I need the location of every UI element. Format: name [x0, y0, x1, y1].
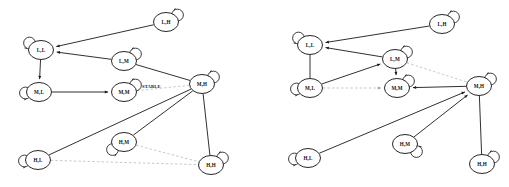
state-node-LH[interactable]: L,H — [154, 8, 184, 31]
state-node-MH[interactable]: M,H — [190, 70, 220, 93]
edge-LM-to-MH — [136, 65, 190, 81]
edge-LM-to-LL — [57, 51, 112, 59]
state-node-label-LL: L,L — [306, 42, 315, 48]
state-node-LM[interactable]: L,M — [112, 47, 142, 70]
edge-ML-to-MM — [323, 87, 381, 90]
state-node-LM[interactable]: L,M — [383, 45, 413, 68]
state-node-ML[interactable]: M,L — [20, 83, 52, 102]
right-state-diagram-panel: L,LL,HL,MM,LM,MM,HH,LH,MH,H — [254, 0, 509, 187]
state-node-label-ML: M,L — [305, 85, 315, 91]
state-node-label-HM: H,M — [400, 141, 410, 147]
state-node-LH[interactable]: L,H — [430, 10, 460, 33]
state-node-HH[interactable]: H,H — [199, 151, 229, 174]
state-node-MM[interactable]: M,M — [385, 74, 415, 97]
state-node-label-LM: L,M — [119, 58, 129, 64]
state-node-MH[interactable]: M,H — [467, 72, 497, 95]
state-node-label-HL: H,L — [34, 157, 43, 163]
left-diagram-canvas: L,LL,HL,MM,LM,MM,HH,LH,MH,H STABLE — [0, 0, 255, 187]
state-node-label-HM: H,M — [119, 139, 129, 145]
state-node-ML[interactable]: M,L — [291, 79, 323, 98]
edge-LH-to-LL — [56, 25, 153, 48]
left-annotations-layer: STABLE — [142, 84, 161, 89]
state-node-HH[interactable]: H,H — [470, 150, 500, 173]
edge-LM-to-LL — [326, 47, 383, 57]
edge-LM-to-MM — [394, 69, 397, 75]
state-node-label-ML: M,L — [34, 89, 44, 95]
edge-LH-to-LL — [326, 26, 430, 43]
state-node-LL[interactable]: L,L — [24, 37, 54, 59]
state-node-label-HH: H,H — [206, 162, 216, 168]
edge-HM-to-MH — [414, 95, 468, 137]
state-node-label-MH: M,H — [197, 81, 207, 87]
state-node-label-LH: L,H — [438, 21, 447, 27]
edge-MH-to-HH — [203, 94, 210, 155]
state-node-label-LL: L,L — [37, 47, 46, 53]
edge-MH-to-HM — [133, 91, 192, 135]
state-node-label-HH: H,H — [477, 161, 487, 167]
state-node-label-MM: M,M — [391, 85, 402, 91]
edge-ML-to-LM — [322, 64, 381, 84]
edge-MH-to-MM — [413, 86, 466, 89]
state-node-HM[interactable]: H,M — [393, 135, 423, 158]
state-diagram-figure: L,LL,HL,MM,LM,MM,HH,LH,MH,H STABLE L,LL,… — [0, 0, 509, 187]
state-node-label-MH: M,H — [474, 83, 484, 89]
edge-MH-to-HH — [479, 96, 481, 154]
annotation-stable: STABLE — [142, 84, 161, 89]
state-node-HL[interactable]: H,L — [19, 151, 51, 170]
state-node-MM[interactable]: M,M — [112, 78, 142, 101]
right-nodes-layer: L,LL,HL,MM,LM,MM,HH,LH,MH,H — [289, 10, 500, 173]
state-node-HL[interactable]: H,L — [289, 149, 321, 168]
left-state-diagram-panel: L,LL,HL,MM,LM,MM,HH,LH,MH,H STABLE — [0, 0, 255, 187]
edge-HL-to-HH — [51, 160, 198, 164]
edge-LL-to-ML — [38, 60, 41, 79]
edge-LM-to-MH — [407, 63, 467, 82]
right-diagram-canvas: L,LL,HL,MM,LM,MM,HH,LH,MH,H — [254, 0, 509, 187]
state-node-label-LH: L,H — [162, 19, 171, 25]
state-node-label-HL: H,L — [304, 155, 313, 161]
state-node-HM[interactable]: H,M — [107, 133, 137, 157]
left-nodes-layer: L,LL,HL,MM,LM,MM,HH,LH,MH,H — [19, 8, 229, 174]
edge-HM-to-HH — [136, 145, 199, 162]
state-node-label-MM: M,M — [118, 89, 129, 95]
state-node-LL[interactable]: L,L — [293, 32, 323, 54]
edge-ML-to-MM — [52, 91, 108, 94]
state-node-label-LM: L,M — [390, 56, 400, 62]
